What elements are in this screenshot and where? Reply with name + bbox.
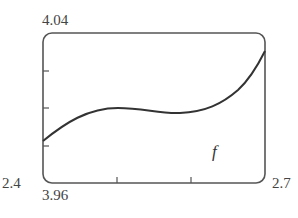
plot-area: f [0, 0, 298, 218]
curve-label-f: f [212, 142, 219, 161]
viewing-window-frame [43, 33, 265, 183]
function-f-curve [43, 51, 265, 141]
axis-ticks [43, 71, 191, 183]
